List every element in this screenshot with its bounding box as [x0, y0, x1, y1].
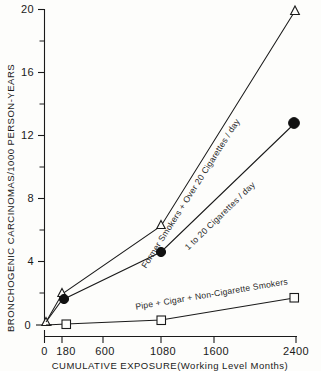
chart-container: 20 16 12 8 4 0 BRONCHOGENIC CARCINOMAS/1… — [0, 0, 321, 371]
series-pipe-cigar-non-cigarette: Pipe + Cigar + Non-Cigarette Smokers — [46, 276, 299, 328]
series-2-marker-2400 — [289, 118, 300, 129]
x-tick-label-2400: 2400 — [283, 345, 309, 357]
y-tick-label-4: 4 — [27, 255, 34, 267]
series-former-smokers-over-20: Former Smokers + Over 20 Cigarettes / da… — [42, 6, 300, 326]
x-tick-label-1600: 1600 — [203, 345, 229, 357]
chart-plot-area: 20 16 12 8 4 0 BRONCHOGENIC CARCINOMAS/1… — [0, 0, 321, 371]
y-tick-label-8: 8 — [27, 192, 34, 204]
x-axis: 0 180 600 1080 1600 2400 CUMULATIVE EXPO… — [41, 330, 309, 371]
series-2-marker-180 — [59, 294, 68, 303]
series-1-marker-2400 — [291, 6, 300, 15]
series-3-marker-1080 — [157, 316, 166, 325]
y-axis: 20 16 12 8 4 0 BRONCHOGENIC CARCINOMAS/1… — [5, 3, 52, 332]
series-2-marker-1080 — [156, 247, 165, 256]
x-tick-label-180: 180 — [56, 345, 76, 357]
series-3-label: Pipe + Cigar + Non-Cigarette Smokers — [135, 276, 289, 311]
y-tick-label-16: 16 — [21, 66, 34, 78]
x-tick-label-0: 0 — [41, 345, 48, 357]
x-axis-title: CUMULATIVE EXPOSURE(Working Level Months… — [52, 360, 289, 371]
y-tick-label-0: 0 — [24, 319, 31, 331]
series-1-line — [46, 11, 295, 322]
series-3-marker-2400 — [290, 294, 299, 303]
y-tick-label-12: 12 — [21, 129, 34, 141]
y-tick-label-20: 20 — [21, 3, 34, 15]
series-3-marker-180 — [62, 320, 71, 329]
x-tick-label-1080: 1080 — [150, 345, 176, 357]
y-axis-title: BRONCHOGENIC CARCINOMAS/1000 PERSON-YEAR… — [5, 64, 16, 332]
x-tick-label-600: 600 — [95, 345, 115, 357]
